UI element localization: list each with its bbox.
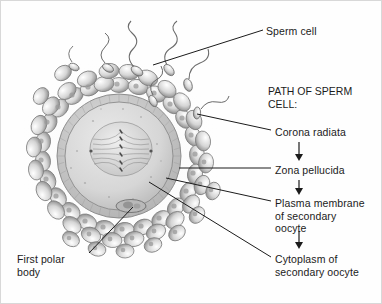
figure-panel: Sperm cell PATH OF SPERM CELL: Corona ra…: [0, 0, 382, 304]
label-plasma-membrane: Plasma membrane of secondary oocyte: [275, 197, 365, 235]
label-cytoplasm: Cytoplasm of secondary oocyte: [275, 253, 359, 278]
leader-sperm-cell: [153, 30, 263, 65]
label-zona-pellucida: Zona pellucida: [275, 164, 345, 177]
down-arrow-icon: [295, 142, 303, 161]
metaphase-spindle-icon: [89, 122, 152, 176]
label-first-polar-body: First polar body: [17, 253, 65, 278]
label-sperm-cell: Sperm cell: [266, 25, 317, 38]
down-arrow-icon: [295, 180, 303, 195]
label-corona-radiata: Corona radiata: [275, 126, 346, 139]
path-of-sperm-header: PATH OF SPERM CELL:: [268, 85, 352, 110]
first-polar-body: [116, 200, 146, 213]
